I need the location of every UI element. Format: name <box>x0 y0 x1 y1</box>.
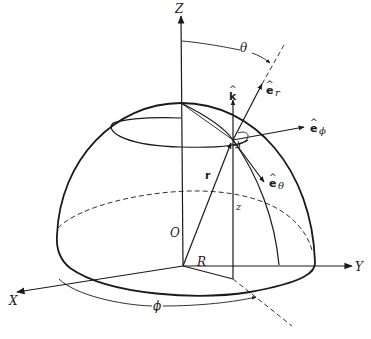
etheta-vector-label: e <box>269 177 276 190</box>
r-vector-label: r <box>205 169 211 182</box>
etheta-subscript: θ <box>278 180 284 191</box>
x-axis <box>17 266 183 292</box>
y-axis-label: Y <box>355 260 364 274</box>
theta-arc <box>182 41 240 50</box>
er-subscript: r <box>275 87 281 98</box>
z-axis-label: Z <box>174 2 184 16</box>
theta-arc-2 <box>252 53 270 63</box>
position-vector-r <box>183 143 231 266</box>
equator-back-dashed <box>58 191 312 250</box>
phi-label: ϕ <box>153 299 161 313</box>
origin-label: O <box>170 226 180 240</box>
x-axis-label: X <box>8 294 18 308</box>
radial-r-label: R <box>196 255 206 269</box>
meridian-arc-top <box>181 103 233 140</box>
height-z-label: z <box>235 201 242 212</box>
er-vector-label: e <box>266 84 273 97</box>
latitude-circle <box>111 123 248 147</box>
ephi-vector-label: e <box>310 122 317 135</box>
meridian-through-p <box>181 103 279 265</box>
unit-vector-etheta <box>233 140 264 182</box>
radial-projection-line <box>183 266 233 279</box>
k-vector-label: k <box>229 90 237 103</box>
z-axis <box>181 16 183 266</box>
unit-vector-ephi <box>233 127 304 140</box>
theta-label: θ <box>240 41 248 55</box>
radial-projection-extension <box>233 279 292 326</box>
spherical-coordinates-diagram: Z Y X O θ ϕ r ^ k ^ e r ^ e ϕ ^ e θ z R <box>0 0 371 339</box>
ephi-subscript: ϕ <box>319 125 326 136</box>
phi-arc-right <box>163 297 256 306</box>
